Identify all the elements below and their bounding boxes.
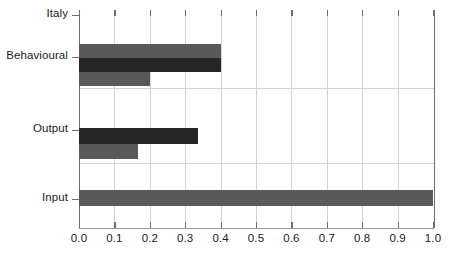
x-tick-mark-top [185, 10, 186, 16]
bar [79, 58, 221, 72]
x-tick-mark-bottom [398, 222, 399, 228]
x-axis-tick-label: 0.1 [94, 232, 134, 244]
x-axis-tick-label: 0.3 [165, 232, 205, 244]
x-axis-tick-label: 0.2 [130, 232, 170, 244]
x-tick-mark-bottom [256, 222, 257, 228]
x-axis-tick-label: 0.7 [307, 232, 347, 244]
x-axis-line [79, 228, 434, 229]
x-tick-mark-top [221, 10, 222, 16]
x-tick-mark-bottom [150, 222, 151, 228]
x-axis-tick-label: 0.4 [201, 232, 241, 244]
x-tick-mark-bottom [291, 222, 292, 228]
x-tick-mark-top [362, 10, 363, 16]
y-tick-mark [72, 57, 79, 58]
x-axis-tick-label: 0.8 [342, 232, 382, 244]
x-tick-mark-top [398, 10, 399, 16]
x-tick-mark-bottom [79, 222, 80, 228]
x-axis-tick-label: 0.9 [378, 232, 418, 244]
x-tick-mark-top [114, 10, 115, 16]
x-tick-mark-bottom [221, 222, 222, 228]
x-axis-tick-label: 1.0 [413, 232, 453, 244]
x-tick-mark-top [327, 10, 328, 16]
x-tick-mark-bottom [327, 222, 328, 228]
x-tick-mark-top [256, 10, 257, 16]
y-axis-category-label: Output [33, 122, 68, 134]
y-axis-category-label: Italy [46, 7, 68, 19]
x-tick-mark-bottom [433, 222, 434, 228]
bar [79, 190, 433, 206]
x-axis-tick-label: 0.6 [271, 232, 311, 244]
x-tick-mark-top [150, 10, 151, 16]
x-tick-mark-bottom [362, 222, 363, 228]
x-tick-mark-top [433, 10, 434, 16]
y-axis-category-label: Input [42, 191, 68, 203]
x-tick-mark-bottom [185, 222, 186, 228]
y-tick-mark [72, 15, 79, 16]
bar [79, 144, 138, 159]
bar [79, 44, 221, 58]
y-axis-category-label: Behavioural [6, 49, 68, 61]
y-tick-mark [72, 130, 79, 131]
y-tick-mark [72, 199, 79, 200]
x-tick-mark-bottom [114, 222, 115, 228]
bar [79, 128, 198, 144]
x-tick-mark-top [291, 10, 292, 16]
x-tick-mark-top [79, 10, 80, 16]
x-axis-tick-label: 0.5 [236, 232, 276, 244]
bar-chart: 0.00.10.20.30.40.50.60.70.80.91.0 ItalyB… [0, 0, 460, 267]
x-axis-tick-label: 0.0 [59, 232, 99, 244]
bar [79, 72, 150, 86]
